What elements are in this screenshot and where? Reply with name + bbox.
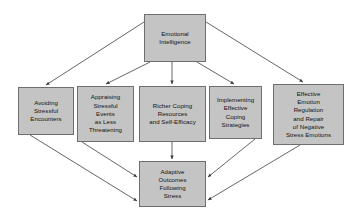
node-avoiding-stressful-encounters-label: Avoiding Stressful Encounters — [19, 99, 73, 124]
node-adaptive-outcomes[interactable]: Adaptive Outcomes Following Stress — [139, 161, 206, 207]
edge-effective-to-adaptive — [208, 145, 300, 200]
edge-ei-to-appraising — [106, 62, 150, 84]
node-avoiding-stressful-encounters[interactable]: Avoiding Stressful Encounters — [18, 87, 74, 135]
edge-avoiding-to-adaptive — [30, 135, 137, 201]
edge-ei-to-avoiding — [46, 22, 144, 85]
node-appraising-stressful-events-label: Appraising Stressful Events as Less Thre… — [78, 93, 133, 134]
node-implementing-effective-coping[interactable]: Implementing Effective Coping Strategies — [209, 86, 262, 139]
node-effective-emotion-regulation[interactable]: Effective Emotion Regulation and Repair … — [273, 84, 344, 145]
edge-ei-to-effective — [206, 22, 303, 82]
edge-ei-to-implementing — [197, 62, 234, 84]
diagram-canvas: Emotional Intelligence Avoiding Stressfu… — [0, 0, 349, 221]
node-appraising-stressful-events[interactable]: Appraising Stressful Events as Less Thre… — [77, 86, 134, 142]
edge-implementing-to-adaptive — [208, 139, 255, 177]
node-emotional-intelligence-label: Emotional Intelligence — [145, 30, 205, 46]
node-adaptive-outcomes-label: Adaptive Outcomes Following Stress — [140, 168, 205, 201]
node-richer-coping-resources-label: Richer Coping Resources and Self-Efficac… — [140, 102, 205, 127]
node-implementing-effective-coping-label: Implementing Effective Coping Strategies — [210, 96, 261, 129]
node-emotional-intelligence[interactable]: Emotional Intelligence — [144, 14, 206, 62]
node-effective-emotion-regulation-label: Effective Emotion Regulation and Repair … — [274, 90, 343, 139]
node-richer-coping-resources[interactable]: Richer Coping Resources and Self-Efficac… — [139, 86, 206, 142]
